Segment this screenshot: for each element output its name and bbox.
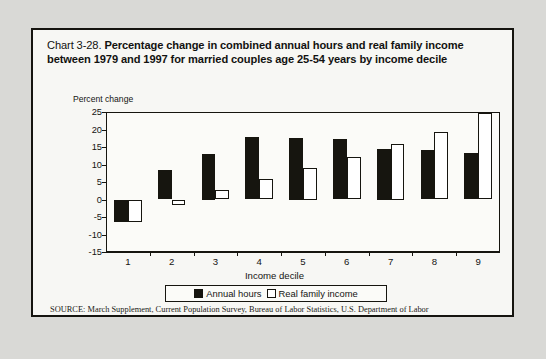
x-axis-label: Income decile: [33, 270, 516, 281]
x-tick-mark: [456, 252, 457, 256]
x-tick-label: 8: [432, 256, 437, 267]
x-tick-label: 2: [169, 256, 174, 267]
x-tick-mark: [412, 252, 413, 256]
y-tick-label: -10: [89, 230, 102, 240]
y-tick-label: -5: [94, 212, 102, 222]
x-tick-mark: [194, 252, 195, 256]
bar-annual-hours-decile-5: [289, 138, 303, 199]
y-tick-label: 15: [92, 142, 102, 152]
bar-annual-hours-decile-8: [421, 150, 435, 200]
bar-annual-hours-decile-1: [114, 200, 128, 223]
chart-legend: Annual hours Real family income: [165, 285, 387, 302]
y-tick-mark: [102, 112, 106, 113]
bar-real-family-income-decile-7: [391, 144, 405, 200]
y-tick-mark: [102, 217, 106, 218]
y-tick-mark: [102, 165, 106, 166]
y-tick-mark: [102, 252, 106, 253]
x-tick-label: 6: [344, 256, 349, 267]
x-tick-mark: [150, 252, 151, 256]
zero-baseline: [106, 252, 500, 253]
bar-real-family-income-decile-3: [215, 190, 229, 200]
bar-real-family-income-decile-5: [303, 168, 317, 200]
legend-label-real-family-income: Real family income: [279, 288, 358, 299]
y-tick-mark: [102, 235, 106, 236]
page-background: Chart 3-28. Percentage change in combine…: [0, 0, 546, 359]
plot-area: Percent change 2520151050-5-10-15 123456…: [33, 30, 516, 319]
bar-real-family-income-decile-9: [478, 113, 492, 199]
bar-annual-hours-decile-2: [158, 170, 172, 199]
x-tick-label: 9: [475, 256, 480, 267]
legend-item-real-family-income: Real family income: [267, 288, 358, 299]
bar-real-family-income-decile-1: [128, 200, 142, 223]
y-tick-label: 25: [92, 107, 102, 117]
chart-card: Chart 3-28. Percentage change in combine…: [31, 28, 514, 317]
y-tick-mark: [102, 182, 106, 183]
y-tick-mark: [102, 147, 106, 148]
bar-real-family-income-decile-6: [347, 157, 361, 200]
y-tick-label: 10: [92, 160, 102, 170]
y-tick-label: 20: [92, 125, 102, 135]
y-tick-mark: [102, 130, 106, 131]
bar-real-family-income-decile-8: [434, 132, 448, 200]
y-tick-mark: [102, 200, 106, 201]
legend-swatch-black-icon: [194, 289, 203, 298]
bar-annual-hours-decile-9: [464, 153, 478, 199]
bar-annual-hours-decile-4: [245, 137, 259, 199]
x-tick-mark: [281, 252, 282, 256]
x-tick-label: 7: [388, 256, 393, 267]
legend-item-annual-hours: Annual hours: [194, 288, 261, 299]
y-tick-label: -15: [89, 247, 102, 257]
x-tick-label: 3: [213, 256, 218, 267]
x-tick-mark: [369, 252, 370, 256]
bar-annual-hours-decile-7: [377, 149, 391, 200]
y-axis-label: Percent change: [73, 94, 133, 104]
bar-real-family-income-decile-4: [259, 179, 273, 200]
bar-annual-hours-decile-3: [202, 154, 216, 200]
x-tick-label: 1: [125, 256, 130, 267]
source-note: SOURCE: March Supplement, Current Popula…: [50, 305, 429, 314]
x-tick-mark: [325, 252, 326, 256]
x-tick-mark: [237, 252, 238, 256]
x-tick-label: 5: [300, 256, 305, 267]
bar-real-family-income-decile-2: [172, 200, 186, 206]
legend-label-annual-hours: Annual hours: [206, 288, 261, 299]
x-tick-label: 4: [257, 256, 262, 267]
bar-annual-hours-decile-6: [333, 139, 347, 200]
legend-swatch-white-icon: [267, 289, 276, 298]
